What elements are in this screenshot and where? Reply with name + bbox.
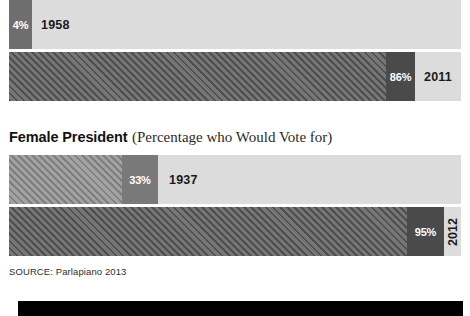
bar-percent-block-2011: 86% <box>386 52 415 101</box>
source-note: SOURCE: Parlapiano 2013 <box>9 266 126 277</box>
bar-row-1958: 4% 1958 <box>9 0 461 49</box>
bar-fill-1958: 4% <box>9 0 32 49</box>
footer-black-bar <box>18 301 463 316</box>
bar-percent-label-2011: 86% <box>383 71 418 83</box>
bar-percent-label-1958: 4% <box>9 19 35 31</box>
bar-row-2012: 95% 2012 <box>9 207 461 256</box>
bar-year-label-1937: 1937 <box>169 155 198 204</box>
bar-percent-block-1937: 33% <box>122 155 158 204</box>
bar-fill-2011 <box>9 52 415 101</box>
bar-year-label-2012-text: 2012 <box>446 218 460 246</box>
bar-row-2011: 86% 2011 <box>9 52 461 101</box>
bar-year-label-2012: 2012 <box>444 207 461 256</box>
bar-year-label-2011: 2011 <box>424 52 452 101</box>
bar-row-1937: 33% 1937 <box>9 155 461 204</box>
bar-percent-label-1937: 33% <box>122 174 157 186</box>
chart-2-heading: Female President (Percentage who Would V… <box>9 128 332 146</box>
bar-fill-2012 <box>9 207 444 256</box>
chart-2-heading-main: Female President <box>9 129 127 145</box>
bar-percent-label-2012: 95% <box>408 226 443 238</box>
bar-year-label-1958: 1958 <box>41 0 70 49</box>
bar-percent-block-2012: 95% <box>407 207 444 256</box>
chart-2-heading-sub: (Percentage who Would Vote for) <box>132 129 332 145</box>
